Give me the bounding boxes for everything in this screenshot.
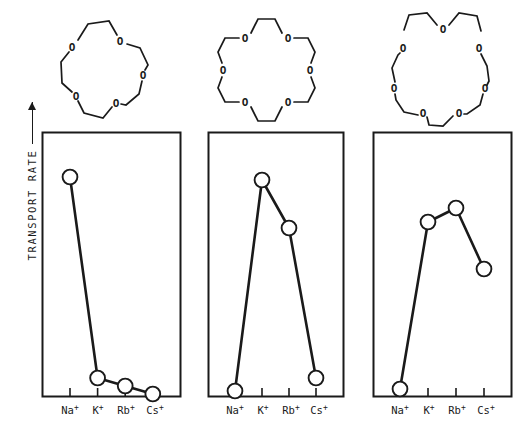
- figure-canvas: O O O O O O O O O O O: [0, 0, 532, 442]
- x-tick-label-cs-plot3: Cs+: [477, 404, 494, 416]
- oxygen-label: O: [242, 96, 249, 109]
- bridge-1: [251, 19, 282, 33]
- x-tick-label-cs-plot2: Cs+: [310, 404, 327, 416]
- data-point-rb[interactable]: [282, 221, 297, 236]
- bridge-4: [251, 107, 282, 121]
- oxygen-label: O: [400, 42, 407, 55]
- oxygen-label: O: [420, 107, 427, 120]
- oxygen-label: O: [307, 64, 314, 77]
- oxygen-label: O: [140, 69, 147, 82]
- data-point-cs[interactable]: [145, 387, 160, 402]
- structure-15-crown-5: [61, 21, 148, 118]
- bridge-4: [78, 101, 112, 118]
- data-point-na[interactable]: [63, 170, 78, 185]
- x-tick-label-rb-plot2: Rb+: [282, 404, 299, 416]
- bridge-5: [427, 116, 453, 126]
- structure-18-crown-6-oxygens: O O O O O O: [220, 32, 314, 109]
- data-point-k[interactable]: [255, 173, 270, 188]
- oxygen-label: O: [73, 90, 80, 103]
- data-line: [70, 177, 153, 394]
- plot-panel-21-crown-7: [374, 133, 512, 397]
- plot-panel-18-crown-6: [209, 133, 344, 399]
- oxygen-label: O: [285, 32, 292, 45]
- oxygen-label: O: [220, 64, 227, 77]
- data-point-rb[interactable]: [118, 379, 133, 394]
- x-tick-label-rb-plot3: Rb+: [448, 404, 465, 416]
- oxygen-label: O: [242, 32, 249, 45]
- bridge-5: [61, 52, 72, 92]
- bridge-2: [127, 44, 148, 70]
- oxygen-label: O: [113, 97, 120, 110]
- data-point-na[interactable]: [228, 384, 243, 399]
- plot-frame: [43, 133, 181, 397]
- data-point-k[interactable]: [90, 371, 105, 386]
- figure-root: TRANSPORT RATE O O O O O: [0, 0, 532, 442]
- data-point-cs[interactable]: [309, 371, 324, 386]
- x-tick-label-k-plot1: K+: [92, 404, 103, 416]
- bridge-1: [78, 21, 117, 40]
- oxygen-label: O: [391, 82, 398, 95]
- oxygen-label: O: [456, 107, 463, 120]
- data-markers: [393, 201, 492, 397]
- data-line: [400, 208, 484, 389]
- oxygen-label: O: [440, 23, 447, 36]
- oxygen-label: O: [482, 82, 489, 95]
- x-tick-label-na-plot3: Na+: [391, 404, 408, 416]
- bridge-6: [395, 94, 418, 115]
- data-point-rb[interactable]: [449, 201, 464, 216]
- x-tick-label-rb-plot1: Rb+: [117, 404, 134, 416]
- oxygen-label: O: [476, 42, 483, 55]
- x-tick-label-na-plot2: Na+: [226, 404, 243, 416]
- x-axis-ticks: [400, 388, 484, 396]
- x-axis-ticks: [235, 388, 316, 396]
- plot-frame: [209, 133, 344, 397]
- bridge-2: [294, 38, 315, 63]
- bridge-1: [404, 13, 437, 30]
- oxygen-label: O: [69, 41, 76, 54]
- oxygen-label: O: [285, 96, 292, 109]
- data-point-k[interactable]: [421, 215, 436, 230]
- plot-panel-15-crown-5: [43, 133, 181, 402]
- bridge-5: [218, 77, 239, 102]
- x-tick-label-k-plot3: K+: [423, 404, 434, 416]
- structure-18-crown-6: [218, 19, 315, 121]
- data-point-cs[interactable]: [477, 262, 492, 277]
- x-tick-label-k-plot2: K+: [257, 404, 268, 416]
- bridge-4: [464, 94, 483, 114]
- bridge-3: [121, 81, 142, 105]
- oxygen-label: O: [117, 35, 124, 48]
- x-tick-label-cs-plot1: Cs+: [146, 404, 163, 416]
- bridge-7: [392, 53, 400, 82]
- bridge-6: [218, 38, 239, 63]
- bridge-3: [294, 77, 315, 102]
- x-tick-label-na-plot1: Na+: [61, 404, 78, 416]
- structure-21-crown-7-oxygens: O O O O O O O: [391, 23, 489, 120]
- bridge-3: [481, 54, 489, 85]
- data-markers: [63, 170, 161, 402]
- data-line: [235, 180, 316, 391]
- bridge-2: [449, 13, 481, 31]
- data-point-na[interactable]: [393, 382, 408, 397]
